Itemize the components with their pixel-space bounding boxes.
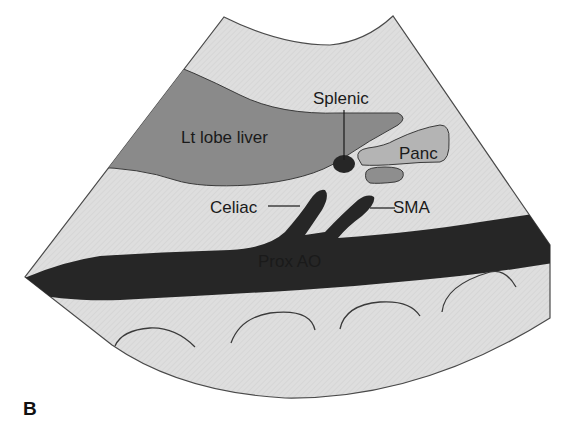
ultrasound-diagram: Lt lobe liver Splenic Panc Celiac SMA Pr…: [0, 0, 572, 438]
label-pancreas: Panc: [399, 144, 438, 163]
panel-label: B: [23, 398, 37, 420]
label-aorta: Prox AO: [258, 252, 321, 271]
ultrasound-sector: [25, 16, 550, 398]
pancreas-lower-lobe: [366, 167, 404, 183]
label-sma: SMA: [393, 198, 431, 217]
label-liver: Lt lobe liver: [181, 128, 268, 147]
label-splenic: Splenic: [313, 89, 369, 108]
label-celiac: Celiac: [210, 198, 258, 217]
